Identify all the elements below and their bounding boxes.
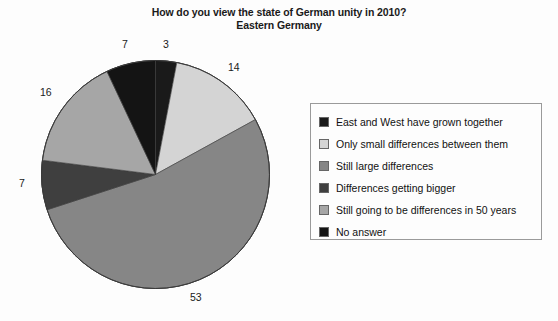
- legend-swatch-icon: [319, 117, 329, 127]
- legend-item-label: No answer: [336, 226, 386, 238]
- legend-swatch-icon: [319, 161, 329, 171]
- legend-item-label: Still going to be differences in 50 year…: [336, 204, 516, 216]
- legend-swatch-icon: [319, 205, 329, 215]
- chart-title: How do you view the state of German unit…: [0, 6, 558, 32]
- legend-item-east-west-grown-together: East and West have grown together: [319, 111, 541, 133]
- chart-title-main: How do you view the state of German unit…: [152, 6, 407, 18]
- legend-item-differences-in-50-years: Still going to be differences in 50 year…: [319, 199, 541, 221]
- legend-item-label: East and West have grown together: [336, 116, 503, 128]
- chart-subtitle: Eastern Germany: [0, 19, 558, 32]
- legend-item-label: Differences getting bigger: [336, 182, 455, 194]
- legend-item-no-answer: No answer: [319, 221, 541, 243]
- pie-value-label-7-bigger: 7: [19, 178, 25, 189]
- pie-value-label-16: 16: [40, 87, 52, 98]
- pie-plot-area: [41, 60, 270, 289]
- pie-slices: [41, 61, 269, 289]
- chart-legend: East and West have grown together Only s…: [310, 103, 542, 240]
- legend-item-label: Only small differences between them: [336, 138, 508, 150]
- pie-value-label-53: 53: [190, 292, 202, 303]
- legend-item-label: Still large differences: [336, 160, 433, 172]
- legend-swatch-icon: [319, 183, 329, 193]
- legend-swatch-icon: [319, 139, 329, 149]
- legend-item-differences-getting-bigger: Differences getting bigger: [319, 177, 541, 199]
- legend-item-only-small-differences: Only small differences between them: [319, 133, 541, 155]
- pie-svg: [41, 60, 270, 289]
- pie-value-label-14: 14: [228, 62, 240, 73]
- pie-value-label-7-no-answer: 7: [122, 39, 128, 50]
- pie-value-label-3: 3: [163, 39, 169, 50]
- legend-swatch-icon: [319, 227, 329, 237]
- legend-item-still-large-differences: Still large differences: [319, 155, 541, 177]
- pie-chart-figure: How do you view the state of German unit…: [0, 0, 558, 321]
